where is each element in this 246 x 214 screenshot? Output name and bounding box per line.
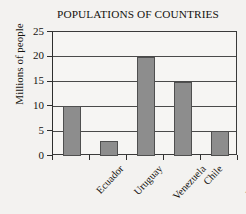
- y-tick-label: 10: [20, 100, 44, 111]
- y-tick-label: 25: [20, 26, 44, 37]
- bar: [63, 106, 81, 156]
- chart-title: POPULATIONS OF COUNTRIES: [0, 8, 246, 21]
- x-tick-mark: [200, 155, 201, 160]
- y-tick-label: 20: [20, 50, 44, 61]
- y-tick-label: 0: [20, 150, 44, 161]
- y-tick-label: 15: [20, 75, 44, 86]
- bar: [137, 57, 155, 156]
- x-tick-mark: [163, 155, 164, 160]
- x-tick-label: Uruguay: [131, 163, 164, 197]
- plot-area: [52, 31, 237, 155]
- x-tick-mark: [52, 155, 53, 160]
- x-tick-mark: [237, 155, 238, 160]
- x-tick-mark: [126, 155, 127, 160]
- bar: [211, 131, 229, 156]
- bar: [100, 141, 118, 156]
- bar: [174, 82, 192, 156]
- x-tick-label: Ecuador: [94, 163, 126, 196]
- x-tick-mark: [89, 155, 90, 160]
- x-tick-label: Paraguay: [243, 163, 246, 199]
- y-tick-label: 5: [20, 125, 44, 136]
- bar-chart-figure: POPULATIONS OF COUNTRIES Millions of peo…: [0, 0, 246, 214]
- x-tick-label: Venezuela: [170, 163, 207, 202]
